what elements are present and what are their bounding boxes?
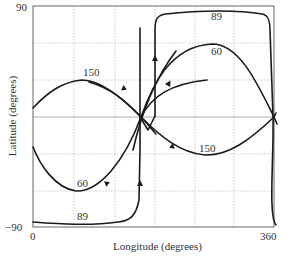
label-89-top: 89 bbox=[211, 11, 222, 22]
label-150-bottom: 150 bbox=[199, 143, 216, 154]
label-150-top: 150 bbox=[83, 67, 100, 78]
x-axis-label: Longitude (degrees) bbox=[0, 240, 295, 252]
label-60-bottom: 60 bbox=[77, 178, 88, 189]
ground-track-chart bbox=[0, 0, 295, 262]
y-tick-bottom: −90 bbox=[5, 222, 22, 233]
plot-frame bbox=[33, 6, 274, 227]
curve-89-right bbox=[155, 11, 276, 225]
curve-89 bbox=[33, 28, 140, 224]
label-60-top: 60 bbox=[211, 46, 222, 57]
curve-60-branch bbox=[141, 80, 207, 117]
grid bbox=[33, 6, 274, 227]
y-tick-top: 90 bbox=[16, 2, 27, 13]
label-89-bottom: 89 bbox=[77, 211, 88, 222]
y-axis-label: Latitude (degrees) bbox=[6, 56, 18, 176]
